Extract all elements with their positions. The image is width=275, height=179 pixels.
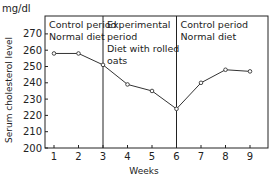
period-labels: Control periodNormal dietExperimentalper… [49,19,248,66]
y-tick-label: 210 [23,126,42,137]
data-point-marker [52,52,56,56]
cholesterol-chart: 200210220230240250260270 123456789 Contr… [0,0,275,179]
data-series [52,52,252,111]
x-tick-label: 5 [149,151,155,162]
data-point-marker [150,89,154,93]
period-label-line: Experimental [107,19,170,30]
x-tick-label: 3 [100,151,106,162]
period-label-line: oats [107,55,127,66]
period-label-line: Normal diet [181,31,237,42]
y-tick-label: 250 [23,61,42,72]
data-point-marker [175,107,179,111]
data-point-marker [77,52,81,56]
data-point-marker [199,81,203,85]
data-point-marker [101,63,105,67]
y-axis-label: Serum cholesterol level [4,37,14,143]
x-tick-label: 6 [173,151,179,162]
x-tick-label: 8 [222,151,228,162]
data-point-marker [224,68,228,72]
x-tick-label: 2 [75,151,81,162]
period-label-line: period [107,31,137,42]
x-tick-label: 4 [124,151,130,162]
y-tick-label: 270 [23,28,42,39]
period-label-line: Control period [181,19,249,30]
y-tick-label: 220 [23,110,42,121]
data-point-marker [126,83,130,87]
y-tick-label: 260 [23,45,42,56]
x-tick-label: 1 [51,151,57,162]
y-unit-label: mg/dl [2,3,31,14]
y-tick-label: 230 [23,94,42,105]
data-point-marker [248,70,252,74]
y-tick-label: 200 [23,143,42,154]
period-label-line: Diet with rolled [107,43,179,54]
y-axis: 200210220230240250260270 [23,28,48,153]
x-axis-label: Weeks [129,166,159,176]
x-tick-label: 7 [198,151,204,162]
period-label-line: Normal diet [49,31,105,42]
data-line [54,53,250,108]
y-tick-label: 240 [23,77,42,88]
chart-svg: 200210220230240250260270 123456789 Contr… [0,0,275,179]
x-tick-label: 9 [247,151,253,162]
